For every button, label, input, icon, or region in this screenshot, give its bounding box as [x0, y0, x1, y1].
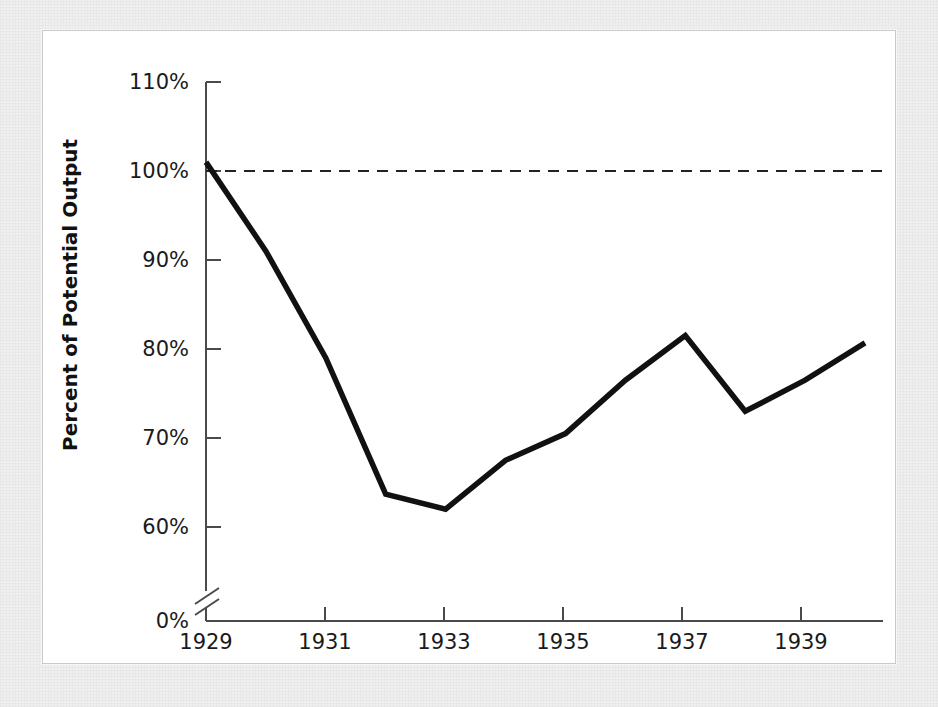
y-tick-label-60: 60% [142, 515, 189, 539]
x-tick-label-1933: 1933 [417, 630, 470, 654]
chart-panel: Percent of Potential Output 110% 100% 90… [42, 30, 896, 664]
y-tick-label-70: 70% [142, 426, 189, 450]
y-tick-label-110: 110% [129, 70, 189, 94]
x-tick-label-1935: 1935 [536, 630, 589, 654]
y-tick-label-90: 90% [142, 248, 189, 272]
y-tick-label-80: 80% [142, 337, 189, 361]
figure-page: Percent of Potential Output 110% 100% 90… [0, 0, 938, 707]
x-tick-label-1929: 1929 [179, 630, 232, 654]
y-axis-title: Percent of Potential Output [58, 138, 82, 451]
output-series-line [206, 162, 865, 509]
line-chart: Percent of Potential Output 110% 100% 90… [43, 31, 895, 663]
x-tick-label-1931: 1931 [298, 630, 351, 654]
y-tick-label-100: 100% [129, 159, 189, 183]
x-tick-label-1937: 1937 [655, 630, 708, 654]
x-tick-label-1939: 1939 [774, 630, 827, 654]
